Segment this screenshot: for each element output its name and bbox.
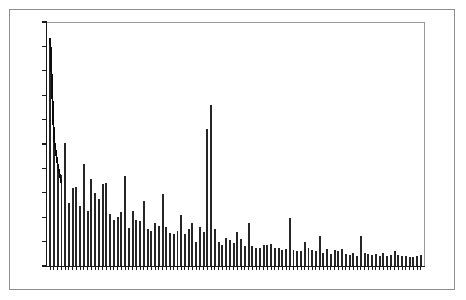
bar	[240, 239, 242, 266]
bar	[128, 228, 130, 266]
bar	[102, 184, 104, 266]
bar	[341, 249, 343, 266]
bar	[218, 242, 220, 266]
bar	[94, 193, 96, 266]
bar	[169, 233, 171, 266]
bar	[293, 250, 295, 266]
bar	[98, 199, 100, 266]
bar	[61, 175, 63, 267]
bar	[191, 223, 193, 266]
bar	[199, 227, 201, 266]
bar	[409, 257, 411, 266]
bar	[379, 256, 381, 266]
bar	[57, 166, 59, 266]
bar	[266, 245, 268, 266]
bar	[177, 231, 179, 266]
bar	[386, 256, 388, 266]
bar	[113, 220, 115, 266]
bar	[251, 246, 253, 266]
bar	[420, 255, 422, 266]
bar	[390, 255, 392, 266]
bar	[334, 250, 336, 266]
bar	[394, 251, 396, 266]
scree-bar-chart	[0, 0, 466, 300]
bar	[281, 250, 283, 266]
bar	[322, 253, 324, 266]
bar	[53, 139, 55, 266]
bar	[255, 248, 257, 266]
bar	[263, 245, 265, 266]
bar	[330, 254, 332, 266]
bar	[173, 234, 175, 266]
bar	[124, 176, 126, 266]
bar	[315, 251, 317, 266]
bar	[68, 203, 70, 266]
bar	[188, 229, 190, 266]
bar	[147, 229, 149, 266]
bar	[75, 187, 77, 266]
bar	[109, 214, 111, 266]
bar	[259, 248, 261, 266]
bar	[326, 249, 328, 266]
bar	[304, 242, 306, 266]
bar	[289, 218, 291, 266]
bar	[150, 231, 152, 266]
bar	[83, 164, 85, 266]
bar	[87, 211, 89, 266]
bar	[401, 256, 403, 266]
bar	[184, 234, 186, 266]
bar	[349, 255, 351, 266]
bar	[311, 250, 313, 266]
bar	[233, 243, 235, 266]
bar	[356, 256, 358, 266]
bar	[72, 188, 74, 266]
bar	[195, 242, 197, 266]
bar	[397, 255, 399, 266]
bar	[300, 251, 302, 266]
bar	[360, 236, 362, 267]
bar	[412, 257, 414, 266]
bar	[416, 256, 418, 266]
bar	[214, 229, 216, 266]
bar	[132, 211, 134, 266]
trend-line	[50, 39, 61, 183]
bar-series	[49, 39, 421, 266]
bar	[364, 253, 366, 266]
bar	[274, 248, 276, 266]
bar	[308, 248, 310, 266]
bar	[296, 251, 298, 266]
bar	[285, 249, 287, 266]
bar	[162, 194, 164, 266]
bar	[64, 143, 66, 266]
bar	[248, 223, 250, 266]
bar	[79, 206, 81, 266]
bar	[203, 232, 205, 266]
bar	[367, 254, 369, 266]
bar	[221, 245, 223, 266]
bar	[135, 220, 137, 266]
bar	[105, 183, 107, 266]
bar	[154, 223, 156, 266]
bar	[117, 217, 119, 266]
bar	[382, 253, 384, 266]
bar	[236, 232, 238, 266]
bar	[229, 240, 231, 266]
bar	[405, 256, 407, 266]
bar	[337, 251, 339, 266]
bar	[244, 246, 246, 266]
figure-root	[0, 0, 466, 300]
bar	[206, 129, 208, 266]
bar	[270, 244, 272, 266]
bar	[120, 212, 122, 266]
bar	[319, 236, 321, 267]
bar	[371, 255, 373, 266]
bar	[210, 105, 212, 266]
bar	[180, 215, 182, 266]
bar	[90, 179, 92, 266]
bar	[139, 221, 141, 266]
bar	[278, 248, 280, 266]
bar	[143, 201, 145, 266]
bar	[225, 238, 227, 266]
bar	[345, 254, 347, 266]
bar	[165, 227, 167, 266]
